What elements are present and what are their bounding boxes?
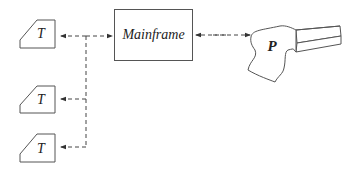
terminal-2: T bbox=[20, 86, 55, 113]
terminal-1-label: T bbox=[37, 26, 46, 41]
terminal-1: T bbox=[20, 20, 55, 48]
printer-label: P bbox=[267, 38, 277, 54]
terminal-3: T bbox=[20, 134, 55, 162]
terminal-2-label: T bbox=[37, 92, 46, 107]
printer: P bbox=[248, 26, 341, 82]
terminal-3-label: T bbox=[37, 141, 46, 156]
mainframe-box: Mainframe bbox=[115, 10, 193, 61]
network-diagram: T T T Mainframe P bbox=[0, 0, 358, 172]
mainframe-label: Mainframe bbox=[121, 27, 184, 42]
